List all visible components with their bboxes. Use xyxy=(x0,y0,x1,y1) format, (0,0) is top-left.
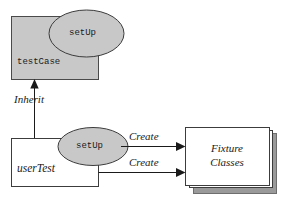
diagram-canvas: testCase setUp Inherit userTest setUp Cr… xyxy=(0,0,287,207)
user-test-box-label: userTest xyxy=(17,162,55,174)
test-case-setup-label: setUp xyxy=(69,29,96,38)
inherit-edge-label: Inherit xyxy=(14,94,44,106)
test-case-box-label: testCase xyxy=(17,58,60,67)
fixture-classes-label-line2: Classes xyxy=(185,157,269,169)
create-edge-lower-label: Create xyxy=(129,157,159,169)
inherit-edge-arrowhead xyxy=(30,79,38,89)
create-edge-upper-label: Create xyxy=(129,131,159,143)
fixture-classes-label-line1: Fixture xyxy=(185,143,269,155)
create-edge-lower-arrowhead xyxy=(176,168,186,177)
user-test-setup-label: setUp xyxy=(76,142,103,151)
